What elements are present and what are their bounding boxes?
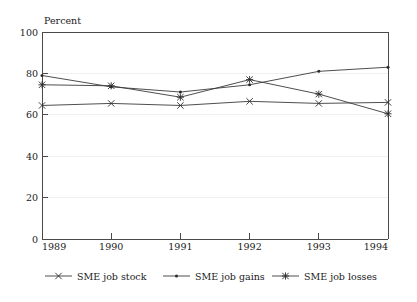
x-tick-label-1990: 1990 <box>99 241 123 252</box>
legend-marker-asterisk-icon <box>282 272 289 279</box>
y-axis-labels: 100 80 60 40 20 0 <box>20 27 38 245</box>
legend-label-2: SME job losses <box>304 271 377 282</box>
y-axis-title: Percent <box>44 15 81 26</box>
data-point-marker <box>41 74 44 77</box>
y-tick-label-60: 60 <box>26 109 38 120</box>
x-tick-label-1993: 1993 <box>307 241 331 252</box>
series-path <box>42 80 388 114</box>
x-tick-label-1994: 1994 <box>364 241 388 252</box>
x-tick-label-1991: 1991 <box>168 241 192 252</box>
legend-marker-glyph <box>282 272 289 279</box>
legend-marker-glyph <box>175 275 178 278</box>
data-point-marker <box>317 70 320 73</box>
x-tick-label-1989: 1989 <box>42 241 66 252</box>
data-point-marker <box>246 76 253 83</box>
data-point-marker <box>38 81 45 88</box>
gridlines <box>42 73 388 197</box>
y-tick-label-40: 40 <box>26 151 38 162</box>
series-sme-job-gains <box>41 66 390 94</box>
series-sme-job-losses <box>38 76 391 117</box>
y-axis-ticks <box>42 32 48 239</box>
line-chart-svg: 100 80 60 40 20 0 Percent 1989 1990 1991… <box>0 0 417 302</box>
data-point-marker <box>384 110 391 117</box>
data-point-marker <box>248 83 251 86</box>
legend-item-sme-job-losses[interactable]: SME job losses <box>272 271 377 282</box>
y-tick-label-0: 0 <box>32 234 38 245</box>
data-point-marker <box>177 94 184 101</box>
data-point-marker <box>315 91 322 98</box>
y-tick-label-100: 100 <box>20 27 38 38</box>
data-point-marker <box>387 66 390 69</box>
data-point-marker <box>179 91 182 94</box>
y-tick-label-80: 80 <box>26 68 38 79</box>
legend-label-0: SME job stock <box>77 271 147 282</box>
legend-label-1: SME job gains <box>195 271 265 282</box>
x-axis-labels: 1989 1990 1991 1992 1993 1994 <box>42 241 388 252</box>
legend-item-sme-job-gains[interactable]: SME job gains <box>163 271 265 282</box>
chart-legend: SME job stock SME job gains SME job loss… <box>45 271 377 282</box>
x-axis-ticks <box>42 233 388 239</box>
y-tick-label-20: 20 <box>26 192 38 203</box>
legend-item-sme-job-stock[interactable]: SME job stock <box>45 271 147 282</box>
data-point-marker <box>108 82 115 89</box>
series-path <box>42 101 388 105</box>
legend-marker-dot-icon <box>175 275 178 278</box>
x-tick-label-1992: 1992 <box>238 241 262 252</box>
plot-frame <box>42 32 388 239</box>
chart-figure: 100 80 60 40 20 0 Percent 1989 1990 1991… <box>0 0 417 302</box>
